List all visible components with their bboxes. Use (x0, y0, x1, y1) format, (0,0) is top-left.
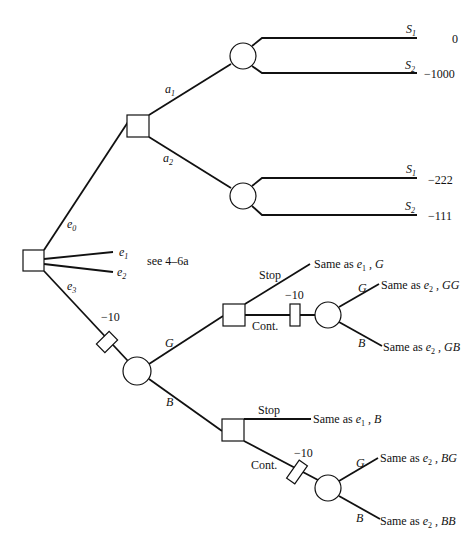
result-g-stop: Same as e1 , G (314, 257, 384, 273)
edge-a1 (149, 64, 231, 115)
label-a1: a1 (165, 82, 175, 98)
decision-node-e0 (127, 115, 149, 137)
label-b-stop: Stop (258, 403, 280, 417)
result-bg: Same as e2 , BG (380, 451, 457, 467)
cost-e3: −10 (101, 310, 120, 324)
decision-node-g (223, 304, 245, 326)
edge-e0 (44, 122, 128, 250)
decision-node-b (222, 419, 244, 441)
label-g-cont: Cont. (252, 319, 278, 333)
edge-s2-bottom (252, 206, 417, 215)
result-bb: Same as e2 , BB (380, 514, 456, 530)
edge-b (149, 379, 222, 431)
label-gg: G (358, 281, 367, 295)
label-b-cont: Cont. (251, 458, 277, 472)
edge-e2 (44, 264, 113, 272)
cost-b-cont: −10 (294, 446, 313, 460)
result-gb: Same as e2 , GB (383, 340, 461, 356)
edge-s2-top (252, 66, 417, 73)
label-bg: G (356, 456, 365, 470)
value-s2-bottom: −111 (428, 209, 452, 223)
see-note: see 4–6a (147, 254, 189, 268)
label-s2-bottom: S2 (405, 199, 415, 215)
edge-s1-bottom (252, 178, 417, 186)
label-a2: a2 (163, 151, 173, 167)
cost-gate-g-cont (290, 304, 300, 326)
label-s2-top: S2 (405, 58, 415, 74)
result-b-stop: Same as e1 , B (313, 412, 382, 428)
chance-node-a2 (230, 183, 256, 209)
label-e2: e2 (117, 265, 126, 281)
chance-node-a1 (230, 43, 256, 69)
labels: e0 e1 e2 e3 see 4–6a a1 a2 S1 0 S2 −1000… (67, 22, 461, 530)
root-decision-node (23, 250, 44, 271)
value-s1-top: 0 (452, 32, 458, 46)
label-bb: B (356, 511, 364, 525)
label-e0: e0 (67, 217, 76, 233)
label-s1-top: S1 (406, 22, 416, 38)
label-g-stop: Stop (259, 268, 281, 282)
label-s1-bottom: S1 (406, 162, 416, 178)
label-b: B (166, 395, 174, 409)
chance-node-e3 (123, 357, 151, 385)
label-gb: B (358, 336, 366, 350)
value-s1-bottom: −222 (428, 173, 453, 187)
edge-g (149, 316, 223, 364)
cost-g-cont: −10 (285, 288, 304, 302)
label-e3: e3 (67, 279, 76, 295)
chance-node-bc (315, 475, 341, 501)
edge-a2 (149, 137, 231, 188)
edge-s1-top (252, 38, 417, 46)
label-e1: e1 (119, 245, 128, 261)
cost-gate-e3 (96, 331, 117, 352)
result-gg: Same as e2 , GG (381, 278, 460, 294)
nodes (23, 43, 341, 501)
decision-tree-diagram: e0 e1 e2 e3 see 4–6a a1 a2 S1 0 S2 −1000… (0, 0, 476, 545)
label-g: G (165, 336, 174, 350)
chance-node-gc (315, 302, 341, 328)
value-s2-top: −1000 (424, 67, 455, 81)
edges (44, 38, 417, 519)
edge-e1 (44, 252, 113, 259)
